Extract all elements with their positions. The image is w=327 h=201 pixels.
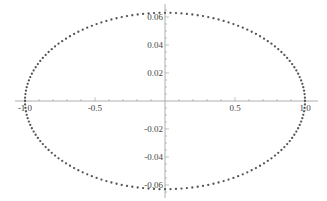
data-point [175,188,177,190]
data-point [186,13,188,15]
data-point [44,146,46,148]
data-point [24,100,26,102]
data-point [39,140,41,142]
data-point [115,183,117,185]
data-point [73,167,75,169]
data-point [91,25,93,27]
data-point [293,134,295,136]
data-point [217,18,219,20]
data-point [300,79,302,81]
data-point [164,188,166,190]
data-point [25,89,27,91]
data-point [207,184,209,186]
data-point [27,117,29,119]
data-point [37,137,39,139]
data-point [289,140,291,142]
data-point [277,48,279,50]
y-tick-label: -0.02 [144,124,163,134]
data-point [126,185,128,187]
data-point [54,154,56,156]
data-point [28,120,30,122]
data-point [227,21,229,23]
data-point [44,54,46,56]
data-point [73,33,75,35]
data-point [237,175,239,177]
data-point [283,146,285,148]
data-point [24,96,26,98]
data-point [57,157,59,159]
data-point [237,25,239,27]
data-point [86,27,88,29]
data-point [280,149,282,151]
data-point [222,180,224,182]
data-point [105,20,107,22]
data-point [37,63,39,65]
data-point [212,17,214,19]
data-point [300,120,302,122]
data-point [191,13,193,15]
data-point [274,45,276,47]
data-point [246,28,248,30]
ellipse-scatter-chart: -1.0-0.50.51.00.060.040.02-0.02-0.04-0.0… [0,0,327,201]
data-point [303,93,305,95]
data-point [65,37,67,39]
data-point [31,73,33,75]
data-point [51,48,53,50]
data-point [33,69,35,71]
data-point [259,35,261,37]
data-point [291,63,293,65]
data-point [299,124,301,126]
data-point [222,20,224,22]
data-point [246,171,248,173]
data-point [255,167,257,169]
data-point [180,12,182,14]
data-point [121,184,123,186]
data-point [301,117,303,119]
data-point [28,79,30,81]
data-point [26,86,28,88]
data-point [277,152,279,154]
data-point [263,162,265,164]
data-point [27,83,29,85]
data-point [47,149,49,151]
data-point [301,83,303,85]
data-point [197,14,199,16]
data-point [191,186,193,188]
data-point [169,12,171,14]
data-point [82,171,84,173]
data-point [61,40,63,42]
data-point [42,143,44,145]
data-point [35,66,37,68]
data-point [69,165,71,167]
data-point [137,186,139,188]
data-point [77,169,79,171]
data-point [29,76,31,78]
data-point [289,60,291,62]
data-point [302,114,304,116]
data-point [57,43,59,45]
data-point [286,143,288,145]
data-point [291,137,293,139]
data-point [131,14,133,16]
x-tick-label: 0.5 [229,103,241,113]
y-tick-label: 0.04 [147,40,163,50]
data-point [100,178,102,180]
data-point [251,169,253,171]
data-point [51,152,53,154]
x-tick-label: 1.0 [299,103,311,113]
data-point [212,183,214,185]
data-point [26,114,28,116]
data-point [186,187,188,189]
data-point [303,89,305,91]
data-point [251,31,253,33]
data-point [283,54,285,56]
data-point [77,31,79,33]
data-point [270,43,272,45]
x-tick-label: -0.5 [88,103,103,113]
data-point [142,13,144,15]
data-point [65,162,67,164]
data-point [263,37,265,39]
data-point [115,17,117,19]
data-point [274,154,276,156]
data-point [61,160,63,162]
